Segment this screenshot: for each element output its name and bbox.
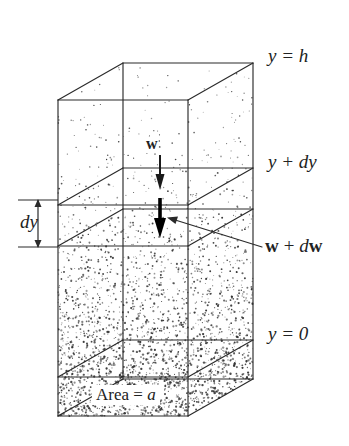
slabtop-right-edge	[188, 168, 253, 205]
label-area-prefix: Area =	[96, 385, 147, 404]
label-top-level: y = h	[268, 46, 308, 65]
top-right-edge	[188, 63, 253, 100]
down-arrow-icon	[156, 155, 165, 190]
label-force: w	[146, 136, 158, 152]
bottom-right-edge	[188, 379, 253, 416]
base-right-edge	[188, 340, 253, 377]
leader-arrowhead-icon	[167, 217, 178, 225]
leader-line-icon	[172, 219, 262, 247]
column-linework	[0, 0, 349, 446]
label-base-level: y = 0	[268, 324, 308, 343]
top-left-edge	[58, 63, 123, 100]
base-left-edge	[58, 340, 123, 377]
label-area-symbol: a	[147, 385, 156, 404]
thick-down-arrow-icon	[154, 198, 166, 238]
label-slab-force: w + dw	[265, 236, 322, 255]
label-slab-top: y + dy	[268, 152, 317, 171]
label-area: Area = a	[92, 385, 160, 405]
label-thickness: dy	[20, 212, 38, 231]
fluid-column-figure: y = h y + dy w + dw y = 0 dy w Area = a	[0, 0, 349, 446]
slabtop-left-edge	[58, 168, 123, 205]
slabbottom-left-edge	[58, 209, 123, 246]
